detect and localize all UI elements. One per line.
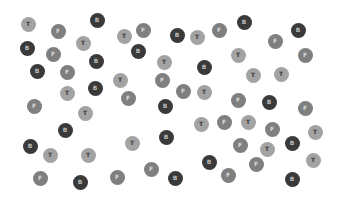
dot-b: B [291, 23, 306, 38]
dot-f: F [233, 138, 248, 153]
dot-b: B [158, 99, 173, 114]
dot-f: F [60, 65, 75, 80]
dot-b: B [30, 64, 45, 79]
dot-t: T [260, 142, 275, 157]
dot-f: F [249, 157, 264, 172]
dot-f: F [121, 91, 136, 106]
dot-t: T [81, 148, 96, 163]
dot-b: B [131, 44, 146, 59]
dot-b: B [170, 28, 185, 43]
dot-t: T [197, 85, 212, 100]
dot-b: B [262, 95, 277, 110]
dot-t: T [231, 48, 246, 63]
dot-b: B [285, 172, 300, 187]
dot-f: F [46, 47, 61, 62]
dot-f: F [51, 24, 66, 39]
dot-t: T [308, 125, 323, 140]
dot-f: F [298, 48, 313, 63]
dot-b: B [168, 171, 183, 186]
dot-f: F [155, 73, 170, 88]
dot-b: B [197, 60, 212, 75]
dot-b: B [58, 123, 73, 138]
dot-f: F [298, 101, 313, 116]
dot-b: B [90, 13, 105, 28]
dot-b: B [88, 81, 103, 96]
dot-t: T [43, 148, 58, 163]
dot-t: T [157, 55, 172, 70]
dot-t: T [78, 106, 93, 121]
dot-t: T [306, 153, 321, 168]
dot-field: TFBTTFBTFBFBBFBTBTFBFBTTTFBTFFTBFBFFTBTF… [0, 0, 339, 201]
dot-f: F [110, 170, 125, 185]
dot-t: T [241, 115, 256, 130]
dot-b: B [285, 136, 300, 151]
dot-f: F [212, 23, 227, 38]
dot-f: F [217, 115, 232, 130]
dot-t: T [21, 17, 36, 32]
dot-b: B [237, 15, 252, 30]
dot-f: F [231, 93, 246, 108]
dot-b: B [23, 139, 38, 154]
dot-b: B [159, 130, 174, 145]
dot-f: F [27, 99, 42, 114]
dot-f: F [136, 23, 151, 38]
dot-t: T [194, 117, 209, 132]
dot-f: F [265, 122, 280, 137]
dot-t: T [113, 73, 128, 88]
dot-f: F [268, 34, 283, 49]
dot-t: T [125, 136, 140, 151]
dot-t: T [190, 30, 205, 45]
dot-t: T [76, 36, 91, 51]
dot-f: F [176, 84, 191, 99]
dot-b: B [20, 41, 35, 56]
dot-t: T [60, 86, 75, 101]
dot-b: B [89, 54, 104, 69]
dot-b: B [202, 155, 217, 170]
dot-t: T [117, 29, 132, 44]
dot-b: B [73, 175, 88, 190]
dot-f: F [144, 162, 159, 177]
dot-f: F [221, 168, 236, 183]
dot-t: T [246, 68, 261, 83]
dot-f: F [33, 171, 48, 186]
dot-t: T [274, 67, 289, 82]
